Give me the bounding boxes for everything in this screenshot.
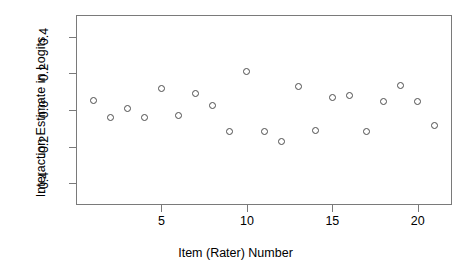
- data-point: [90, 97, 97, 104]
- data-point: [397, 82, 404, 89]
- data-point: [346, 92, 353, 99]
- data-point: [158, 85, 165, 92]
- data-point: [175, 112, 182, 119]
- x-tick-mark: [418, 205, 419, 212]
- x-tick-mark: [161, 205, 162, 212]
- y-axis-title: Interaction Estimate in Logits: [34, 2, 48, 232]
- x-tick-label: 15: [312, 214, 352, 228]
- data-point: [141, 114, 148, 121]
- x-tick-label: 5: [141, 214, 181, 228]
- data-point: [312, 127, 319, 134]
- data-point: [295, 83, 302, 90]
- scatter-plot-figure: 0.40.20.0-0.2-0.4 5101520 Interaction Es…: [0, 0, 471, 278]
- y-tick-mark: [69, 110, 76, 111]
- x-tick-label: 20: [398, 214, 438, 228]
- x-axis-title: Item (Rater) Number: [0, 246, 471, 260]
- y-tick-mark: [69, 37, 76, 38]
- x-tick-mark: [247, 205, 248, 212]
- y-tick-mark: [69, 147, 76, 148]
- data-point: [124, 105, 131, 112]
- data-point: [329, 94, 336, 101]
- x-tick-label: 10: [227, 214, 267, 228]
- plot-panel: [76, 15, 452, 205]
- data-point: [261, 128, 268, 135]
- y-tick-mark: [69, 183, 76, 184]
- x-tick-mark: [332, 205, 333, 212]
- y-tick-mark: [69, 73, 76, 74]
- data-point: [226, 128, 233, 135]
- data-point: [278, 138, 285, 145]
- data-point: [107, 114, 114, 121]
